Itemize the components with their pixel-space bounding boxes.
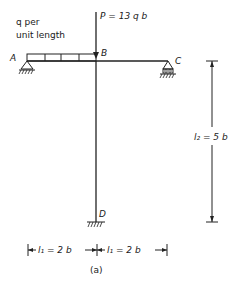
node-b-label: B	[101, 48, 107, 58]
frame-diagram: q per unit length P = 13 q b	[0, 0, 240, 290]
right-span-label: l₁ = 2 b	[107, 245, 141, 255]
left-span-label: l₁ = 2 b	[38, 245, 72, 255]
node-a-label: A	[9, 53, 16, 63]
vertical-dimension-label: l₂ = 5 b	[194, 132, 228, 142]
fixed-support-icon	[87, 222, 105, 227]
distributed-load-label-line1: q per	[16, 17, 40, 27]
node-c-label: C	[175, 56, 182, 66]
pin-support-icon	[19, 61, 35, 74]
distributed-load-label-line2: unit length	[16, 30, 65, 40]
point-load-arrow-icon	[93, 12, 99, 59]
point-load-label: P = 13 q b	[100, 11, 148, 21]
roller-support-icon	[160, 61, 176, 78]
figure-caption: (a)	[90, 265, 103, 275]
distributed-load-icon	[27, 54, 96, 61]
node-d-label: D	[99, 209, 106, 219]
